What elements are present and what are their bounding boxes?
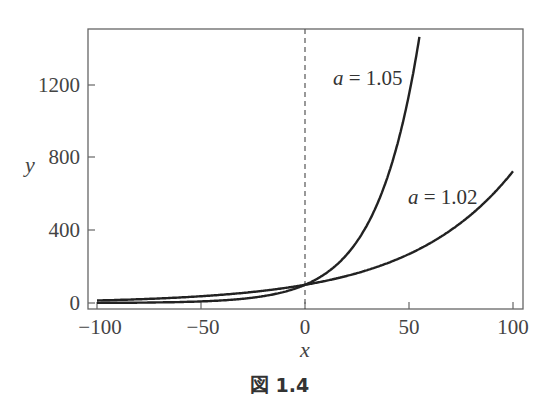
x-tick-label: −100	[78, 315, 121, 339]
chart-svg: 0 400 800 1200 −100 −50 0 50 100 x y a =…	[0, 0, 559, 415]
x-tick-label: −50	[187, 315, 220, 339]
y-tick-label: 400	[49, 218, 81, 242]
annotation-a-1-05: a = 1.05	[333, 66, 403, 90]
x-tick-label: 0	[300, 315, 311, 339]
y-tick-label: 0	[70, 291, 81, 315]
y-tick-label: 1200	[38, 73, 80, 97]
annotation-a-1-02: a = 1.02	[408, 185, 478, 209]
figure-caption: 図 1.4	[0, 370, 559, 397]
x-axis-label: x	[299, 337, 310, 362]
y-axis-label: y	[23, 152, 35, 177]
x-tick-label: 100	[497, 315, 529, 339]
y-tick-label: 800	[49, 145, 81, 169]
y-axis-ticks	[88, 85, 95, 303]
x-tick-label: 50	[399, 315, 420, 339]
